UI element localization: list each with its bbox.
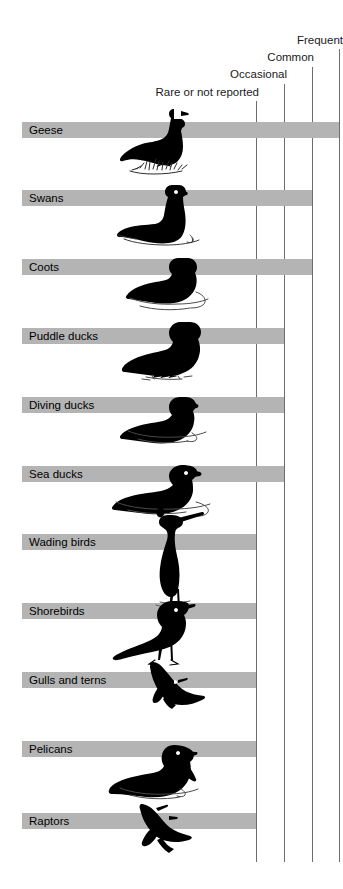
axis-label-common: Common bbox=[267, 51, 314, 64]
gull-silhouette bbox=[126, 660, 211, 720]
bar-swans bbox=[22, 190, 312, 206]
row-label-coots: Coots bbox=[29, 259, 59, 275]
row-label-gulls-and-terns: Gulls and terns bbox=[29, 672, 106, 688]
row-label-swans: Swans bbox=[29, 190, 64, 206]
row-label-sea-ducks: Sea ducks bbox=[29, 466, 83, 482]
goose-silhouette bbox=[112, 107, 222, 179]
row-label-raptors: Raptors bbox=[29, 813, 69, 829]
bar-coots bbox=[22, 259, 312, 275]
axis-label-frequent: Frequent bbox=[297, 34, 343, 47]
row-label-pelicans: Pelicans bbox=[29, 741, 72, 757]
row-label-puddle-ducks: Puddle ducks bbox=[29, 328, 98, 344]
raptor-silhouette bbox=[120, 800, 210, 862]
row-label-geese: Geese bbox=[29, 122, 63, 138]
row-label-shorebirds: Shorebirds bbox=[29, 603, 85, 619]
row-label-wading-birds: Wading birds bbox=[29, 534, 96, 550]
row-label-diving-ducks: Diving ducks bbox=[29, 397, 94, 413]
bird-group-abundance-chart: Rare or not reported Occasional Common F… bbox=[0, 0, 343, 889]
axis-label-occasional: Occasional bbox=[230, 68, 287, 81]
gridline-common bbox=[312, 67, 313, 862]
bar-geese bbox=[22, 122, 339, 138]
gridline-frequent bbox=[339, 49, 340, 862]
heron-silhouette bbox=[138, 503, 218, 613]
axis-label-rare-or-not-reported: Rare or not reported bbox=[155, 86, 259, 99]
